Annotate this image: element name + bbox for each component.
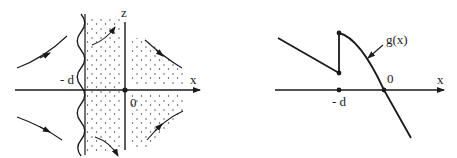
dotted-region — [86, 18, 183, 152]
flow-arrow-lower-left-head — [40, 127, 50, 132]
right-panel: g(x) x - d 0 — [275, 31, 444, 138]
flow-arrow-upper-left — [17, 36, 67, 68]
neg-d-dot — [337, 88, 342, 93]
origin-label: 0 — [130, 95, 137, 110]
figure: z x - d 0 g(x) x - d 0 — [0, 0, 457, 158]
origin-dot — [122, 87, 127, 92]
flow-arrow-lower-left — [17, 117, 62, 140]
g-of-x-label: g(x) — [386, 32, 408, 47]
jump-top-dot — [337, 31, 342, 36]
x-axis-label: x — [190, 72, 197, 87]
g-of-x-pointer — [368, 45, 383, 58]
x-axis-label: x — [437, 72, 444, 87]
wavy-boundary — [77, 14, 85, 156]
jump-bottom-dot — [337, 71, 342, 76]
origin-label: 0 — [387, 71, 394, 86]
left-panel: z x - d 0 — [15, 5, 200, 156]
z-axis-label: z — [121, 5, 127, 20]
neg-d-label: - d — [60, 72, 75, 87]
neg-d-label: - d — [332, 94, 347, 109]
